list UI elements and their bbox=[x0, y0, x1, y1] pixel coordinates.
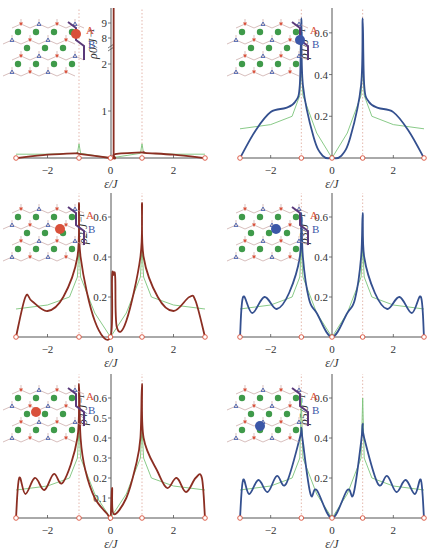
lattice-edge bbox=[68, 22, 84, 60]
band-marker bbox=[108, 335, 113, 340]
lattice-plaquette-dot bbox=[257, 214, 263, 220]
band-marker bbox=[360, 156, 365, 161]
lattice-plaquette-dot bbox=[239, 61, 245, 67]
band-marker bbox=[203, 335, 208, 340]
x-tick-label: −2 bbox=[42, 343, 54, 355]
band-marker bbox=[422, 516, 427, 521]
x-axis-title: ε/J bbox=[325, 537, 339, 551]
band-marker bbox=[140, 156, 145, 161]
x-tick-label: 2 bbox=[391, 164, 397, 176]
x-axis-title: ε/J bbox=[104, 537, 118, 551]
lattice-plaquette-dot bbox=[239, 29, 245, 35]
y-tick-label: 1 bbox=[102, 105, 108, 117]
lattice-plaquette-dot bbox=[266, 411, 272, 417]
y-tick-label: 0.4 bbox=[314, 69, 328, 81]
lattice-plaquette-dot bbox=[51, 246, 57, 252]
lattice-plaquette-dot bbox=[257, 29, 263, 35]
x-tick-label: 0 bbox=[108, 524, 114, 536]
lattice-plaquette-dot bbox=[239, 395, 245, 401]
lattice-plaquette-dot bbox=[275, 214, 281, 220]
lattice-plaquette-dot bbox=[239, 214, 245, 220]
panel-top-right: −2020.20.40.6ρ1/J⁻¹ε/JAB bbox=[227, 8, 426, 191]
y-tick-label: 0.4 bbox=[314, 432, 328, 444]
highlighted-site-b bbox=[255, 421, 265, 431]
lattice-plaquette-dot bbox=[248, 411, 254, 417]
lattice-plaquette-dot bbox=[248, 230, 254, 236]
x-tick-label: −2 bbox=[42, 164, 54, 176]
lattice-plaquette-dot bbox=[275, 427, 281, 433]
y-tick-label: 0.2 bbox=[314, 110, 328, 122]
lattice-inset: AB bbox=[3, 19, 95, 76]
x-tick-label: 2 bbox=[171, 343, 177, 355]
lattice-plaquette-dot bbox=[257, 246, 263, 252]
lattice-plaquette-dot bbox=[275, 246, 281, 252]
lattice-plaquette-dot bbox=[51, 427, 57, 433]
lattice-plaquette-dot bbox=[293, 395, 299, 401]
y-tick-label: 0.4 bbox=[93, 251, 107, 263]
site-b-label: B bbox=[88, 38, 95, 50]
site-b-label: B bbox=[312, 38, 319, 50]
x-axis-title: ε/J bbox=[325, 356, 339, 370]
site-b-label: B bbox=[88, 223, 95, 235]
lattice-plaquette-dot bbox=[15, 214, 21, 220]
panel-middle-left: −2020.20.40.6ρ2/J⁻¹ε/JAB bbox=[3, 193, 207, 370]
x-tick-label: 0 bbox=[329, 164, 335, 176]
lattice-plaquette-dot bbox=[33, 29, 39, 35]
lattice-plaquette-dot bbox=[293, 29, 299, 35]
lattice-plaquette-dot bbox=[24, 230, 30, 236]
band-marker bbox=[238, 335, 243, 340]
y-tick-label: 0.2 bbox=[314, 472, 328, 484]
highlighted-site-b bbox=[295, 35, 305, 45]
lattice-plaquette-dot bbox=[60, 45, 66, 51]
lattice-plaquette-dot bbox=[51, 61, 57, 67]
site-a-label: A bbox=[86, 390, 94, 402]
band-marker bbox=[360, 516, 365, 521]
band-marker bbox=[108, 156, 113, 161]
lattice-plaquette-dot bbox=[33, 427, 39, 433]
band-marker bbox=[330, 156, 335, 161]
x-tick-label: −2 bbox=[265, 164, 277, 176]
lattice-plaquette-dot bbox=[51, 29, 57, 35]
y-tick-label: 0.6 bbox=[93, 392, 107, 404]
x-tick-label: −2 bbox=[265, 524, 277, 536]
x-axis-title: ε/J bbox=[325, 177, 339, 191]
y-tick-label: 2 bbox=[102, 58, 108, 70]
lattice-plaquette-dot bbox=[293, 246, 299, 252]
lattice-plaquette-dot bbox=[15, 29, 21, 35]
x-tick-label: −2 bbox=[42, 524, 54, 536]
band-marker bbox=[422, 156, 427, 161]
lattice-plaquette-dot bbox=[24, 45, 30, 51]
band-marker bbox=[140, 335, 145, 340]
lattice-plaquette-dot bbox=[69, 214, 75, 220]
band-marker bbox=[238, 516, 243, 521]
y-tick-label: 9 bbox=[102, 17, 108, 29]
site-a-label: A bbox=[310, 390, 318, 402]
band-marker bbox=[299, 516, 304, 521]
lattice-plaquette-dot bbox=[33, 214, 39, 220]
panel-bottom-right: −2020.20.40.6ρ5/J⁻¹ε/JAB bbox=[227, 374, 426, 551]
y-tick-label: 0.2 bbox=[314, 291, 328, 303]
x-tick-label: 0 bbox=[108, 164, 114, 176]
band-marker bbox=[14, 516, 19, 521]
lattice-plaquette-dot bbox=[266, 230, 272, 236]
lattice-plaquette-dot bbox=[293, 61, 299, 67]
y-tick-label: 0.2 bbox=[93, 472, 107, 484]
x-tick-label: 0 bbox=[329, 343, 335, 355]
lattice-plaquette-dot bbox=[15, 427, 21, 433]
x-axis-title: ε/J bbox=[104, 177, 118, 191]
lattice-plaquette-dot bbox=[15, 246, 21, 252]
y-tick-label: 0.4 bbox=[314, 251, 328, 263]
dos-figure: −2021289ρ0/J⁻¹ε/JAB−2020.20.40.6ρ1/J⁻¹ε/… bbox=[0, 0, 440, 556]
lattice-plaquette-dot bbox=[51, 214, 57, 220]
band-marker bbox=[203, 516, 208, 521]
lattice-plaquette-dot bbox=[257, 61, 263, 67]
highlighted-site-a bbox=[31, 407, 41, 417]
site-b-label: B bbox=[312, 223, 319, 235]
site-a-label: A bbox=[86, 24, 94, 36]
lattice-plaquette-dot bbox=[42, 45, 48, 51]
x-tick-label: 2 bbox=[171, 524, 177, 536]
band-marker bbox=[77, 335, 82, 340]
highlighted-site-a bbox=[55, 224, 65, 234]
lattice-plaquette-dot bbox=[15, 61, 21, 67]
lattice-plaquette-dot bbox=[15, 395, 21, 401]
